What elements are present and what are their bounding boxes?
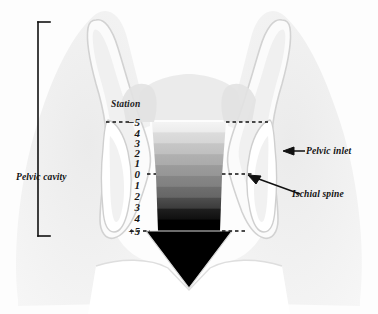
station-label-4: 4 [118,212,140,224]
label-pelvic-cavity: Pelvic cavity [16,172,67,182]
station-label-+5: +5 [114,225,140,237]
station-scale-title: Station [111,99,140,109]
descent-funnel [152,122,226,231]
label-ischial-spine: Ischial spine [292,189,344,199]
pelvis-illustration [0,0,378,314]
label-pelvic-inlet: Pelvic inlet [306,146,351,156]
pelvic-station-diagram: Station −5 4 3 2 1 0 1 2 3 4 +5 Pelvic c… [0,0,378,314]
